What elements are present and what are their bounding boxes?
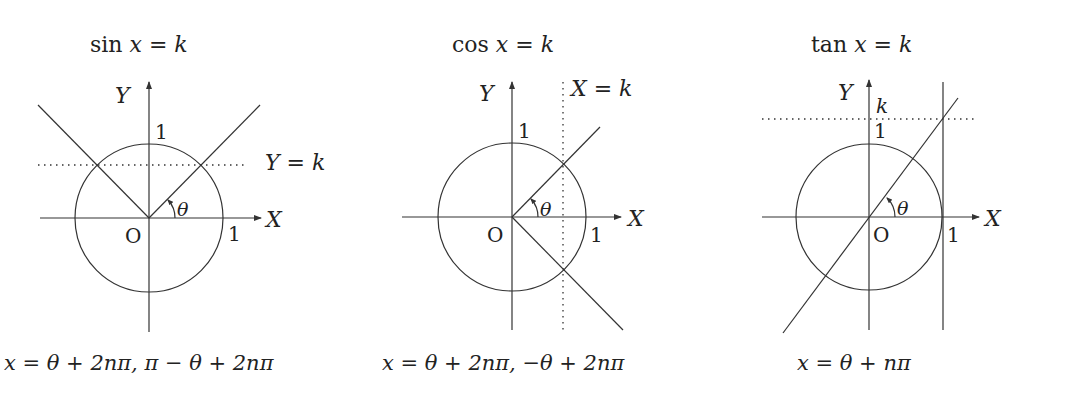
- x-axis-label: X: [264, 207, 283, 232]
- angle-label: θ: [177, 198, 189, 220]
- angle-arc-icon: [168, 200, 175, 218]
- x-axis-label: X: [626, 206, 645, 231]
- origin-label: O: [487, 223, 503, 247]
- ray-minus-theta: [512, 217, 623, 330]
- origin-label: O: [125, 224, 141, 248]
- ray-pi-minus-theta: [38, 105, 149, 218]
- unit-x-label: 1: [228, 222, 241, 246]
- ray-theta-line: [783, 98, 958, 333]
- cos-solution: x = θ + 2nπ, −θ + 2nπ: [382, 351, 625, 375]
- unit-x-label: 1: [590, 223, 603, 247]
- unit-y-label: 1: [518, 119, 531, 143]
- y-axis-label: Y: [838, 80, 855, 105]
- sin-title: sin x = k: [90, 32, 188, 57]
- cos-diagram: cos x = k Y X O 1 1 θ X = k x = θ + 2nπ,…: [382, 32, 645, 375]
- line-label: Y = k: [265, 150, 325, 175]
- y-axis-label: Y: [115, 83, 132, 108]
- y-axis-label: Y: [479, 81, 496, 106]
- angle-label: θ: [540, 198, 552, 220]
- unit-y-label: 1: [874, 119, 887, 143]
- angle-arc-icon: [887, 198, 895, 217]
- sin-diagram: sin x = k Y X O 1 1 θ Y = k x = θ + 2nπ,…: [4, 32, 325, 375]
- line-label: X = k: [569, 76, 632, 101]
- k-label: k: [876, 94, 888, 118]
- sin-solution: x = θ + 2nπ, π − θ + 2nπ: [4, 351, 275, 375]
- tan-title: tan x = k: [811, 32, 912, 57]
- trig-equations-figure: sin x = k Y X O 1 1 θ Y = k x = θ + 2nπ,…: [0, 0, 1065, 399]
- x-axis-label: X: [983, 206, 1002, 231]
- unit-y-label: 1: [155, 120, 168, 144]
- angle-label: θ: [897, 197, 909, 219]
- origin-label: O: [873, 223, 889, 247]
- angle-arc-icon: [531, 199, 538, 217]
- tan-diagram: tan x = k Y X O 1 1 k θ x = θ + nπ: [762, 32, 1002, 375]
- tan-solution: x = θ + nπ: [797, 351, 912, 375]
- cos-title: cos x = k: [452, 32, 554, 57]
- unit-x-label: 1: [947, 223, 960, 247]
